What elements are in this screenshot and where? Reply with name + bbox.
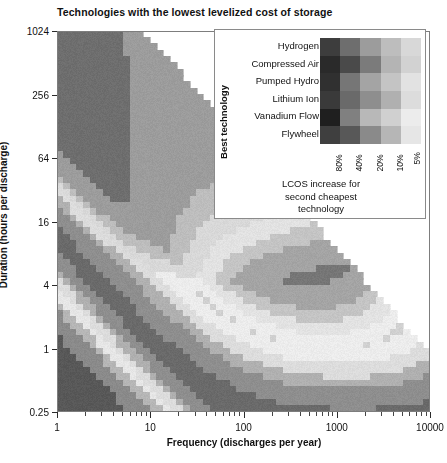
legend-row-label: Hydrogen	[229, 37, 319, 55]
x-tick-mark-minor	[416, 412, 417, 416]
x-tick-mark-major	[430, 412, 431, 418]
y-tick-label: 4	[43, 280, 49, 291]
x-tick-mark-minor	[239, 412, 240, 416]
x-tick-mark-minor	[130, 412, 131, 416]
legend-swatch	[360, 91, 380, 109]
x-tick-mark-minor	[136, 412, 137, 416]
x-tick-mark-minor	[141, 412, 142, 416]
y-tick-label: 256	[32, 89, 49, 100]
chart-figure: Technologies with the lowest levelized c…	[0, 0, 447, 463]
x-tick-mark-major	[337, 412, 338, 418]
x-tick-label: 10	[145, 422, 156, 433]
x-tick-mark-minor	[101, 412, 102, 416]
x-tick-mark-minor	[421, 412, 422, 416]
legend-swatch	[340, 109, 360, 127]
legend-column-label: 80%	[334, 155, 344, 172]
y-tick-label: 16	[38, 216, 49, 227]
legend-row-labels: HydrogenCompressed AirPumped HydroLithiu…	[229, 37, 319, 143]
x-tick-mark-minor	[393, 412, 394, 416]
legend-swatch	[340, 73, 360, 91]
legend-swatch	[340, 91, 360, 109]
x-tick-label: 100	[235, 422, 252, 433]
x-tick-mark-minor	[288, 412, 289, 416]
x-tick-mark-minor	[113, 412, 114, 416]
x-tick-mark-minor	[234, 412, 235, 416]
x-tick-label: 1	[54, 422, 60, 433]
x-tick-label: 10000	[416, 422, 444, 433]
legend-column-label: 40%	[354, 155, 364, 172]
y-tick-label: 1	[43, 343, 49, 354]
legend-swatch	[401, 73, 421, 91]
x-tick-mark-minor	[309, 412, 310, 416]
legend-row-label: Flywheel	[229, 125, 319, 143]
legend-swatch	[381, 56, 401, 74]
legend-panel: Best technology HydrogenCompressed AirPu…	[214, 29, 426, 219]
legend-column-label: 10%	[394, 155, 404, 172]
legend-row-label: Lithium Ion	[229, 90, 319, 108]
x-tick-mark-minor	[195, 412, 196, 416]
x-tick-mark-minor	[409, 412, 410, 416]
x-tick-mark-minor	[316, 412, 317, 416]
legend-column-label: 5%	[412, 152, 422, 164]
y-tick-mark	[52, 31, 57, 32]
y-tick-mark	[52, 285, 57, 286]
legend-swatch	[381, 38, 401, 56]
x-tick-mark-minor	[322, 412, 323, 416]
x-tick-mark-major	[244, 412, 245, 418]
legend-caption-line-2: second cheapest	[215, 191, 427, 204]
y-axis-label: Duration (hours per discharge)	[0, 142, 9, 289]
y-tick-label: 64	[38, 153, 49, 164]
x-tick-mark-minor	[426, 412, 427, 416]
x-tick-mark-minor	[381, 412, 382, 416]
chart-title: Technologies with the lowest levelized c…	[57, 6, 357, 18]
x-tick-mark-major	[150, 412, 151, 418]
x-tick-mark-minor	[215, 412, 216, 416]
x-tick-mark-minor	[328, 412, 329, 416]
x-tick-mark-minor	[223, 412, 224, 416]
legend-swatch	[360, 38, 380, 56]
legend-swatch	[320, 91, 340, 109]
y-tick-mark	[52, 95, 57, 96]
legend-row-label: Pumped Hydro	[229, 72, 319, 90]
legend-swatch	[360, 56, 380, 74]
legend-row-label: Vanadium Flow	[229, 107, 319, 125]
legend-swatch	[320, 73, 340, 91]
x-axis-label: Frequency (discharges per year)	[167, 437, 322, 448]
legend-caption: LCOS increase for second cheapest techno…	[215, 178, 427, 216]
legend-swatch	[401, 91, 421, 109]
legend-swatch	[360, 126, 380, 144]
legend-swatch	[340, 56, 360, 74]
x-tick-mark-minor	[178, 412, 179, 416]
legend-caption-line-1: LCOS increase for	[215, 178, 427, 191]
legend-column-labels: 80%40%20%10%5%	[320, 146, 421, 174]
x-tick-mark-minor	[229, 412, 230, 416]
legend-swatch	[340, 38, 360, 56]
legend-swatch	[381, 73, 401, 91]
x-tick-mark-minor	[122, 412, 123, 416]
legend-row-label: Compressed Air	[229, 55, 319, 73]
y-tick-mark	[52, 222, 57, 223]
legend-swatch	[401, 38, 421, 56]
x-tick-mark-minor	[272, 412, 273, 416]
x-tick-mark-minor	[332, 412, 333, 416]
x-tick-mark-minor	[300, 412, 301, 416]
legend-swatch	[381, 126, 401, 144]
x-tick-mark-minor	[146, 412, 147, 416]
x-tick-mark-minor	[206, 412, 207, 416]
legend-axis-title: Best technology	[218, 85, 229, 159]
x-tick-mark-minor	[402, 412, 403, 416]
legend-swatch	[401, 109, 421, 127]
legend-swatch	[401, 56, 421, 74]
legend-swatch	[360, 109, 380, 127]
x-tick-mark-minor	[365, 412, 366, 416]
legend-swatch	[320, 109, 340, 127]
x-tick-mark-minor	[85, 412, 86, 416]
x-tick-label: 1000	[326, 422, 348, 433]
legend-swatch	[360, 73, 380, 91]
y-tick-label: 1024	[27, 26, 49, 37]
legend-swatch	[320, 38, 340, 56]
legend-column-label: 20%	[374, 155, 384, 172]
legend-swatch	[381, 109, 401, 127]
legend-swatch	[320, 56, 340, 74]
legend-swatch	[340, 126, 360, 144]
